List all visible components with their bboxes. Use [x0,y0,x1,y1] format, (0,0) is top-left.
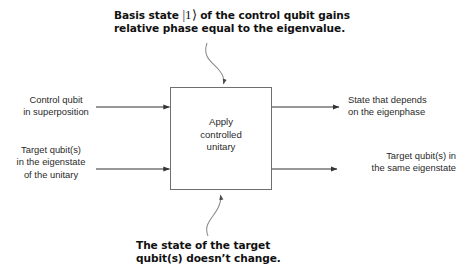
arrow-layer [0,0,459,276]
block-diagram: Basis state |1⟩ of the control qubit gai… [0,0,459,276]
leader-curve-bottom-callout [207,195,221,236]
leader-curve-top-callout [206,43,224,84]
